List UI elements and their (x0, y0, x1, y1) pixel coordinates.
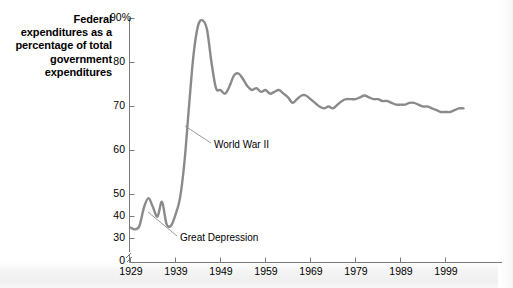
x-tick-label-1999: 1999 (423, 265, 469, 277)
x-tick-label-1959: 1959 (243, 265, 289, 277)
annotation-leader-lines (148, 126, 211, 236)
axes-group (126, 18, 502, 263)
annotation-great-depression: Great Depression (180, 232, 258, 243)
y-tick-label-60: 60 (95, 143, 125, 155)
y-tick-label-80: 80 (95, 55, 125, 67)
y-tick-label-40: 40 (95, 209, 125, 221)
y-tick-label-70: 70 (95, 99, 125, 111)
x-tick-label-1929: 1929 (108, 265, 154, 277)
x-axis-ticks (131, 258, 446, 263)
x-tick-label-1969: 1969 (288, 265, 334, 277)
x-tick-label-1979: 1979 (333, 265, 379, 277)
y-tick-label-90: 90% (95, 11, 131, 23)
data-series-line (131, 20, 464, 229)
annotation-world-war-ii: World War II (214, 139, 269, 150)
leader-line-world-war-ii (185, 126, 211, 143)
x-tick-label-1989: 1989 (378, 265, 424, 277)
x-tick-label-1949: 1949 (198, 265, 244, 277)
chart-figure: Federal expenditures as a percentage of … (0, 0, 513, 288)
y-axis-ticks (130, 19, 135, 239)
y-tick-label-50: 50 (95, 187, 125, 199)
y-tick-label-30: 30 (95, 231, 125, 243)
x-tick-label-1939: 1939 (153, 265, 199, 277)
